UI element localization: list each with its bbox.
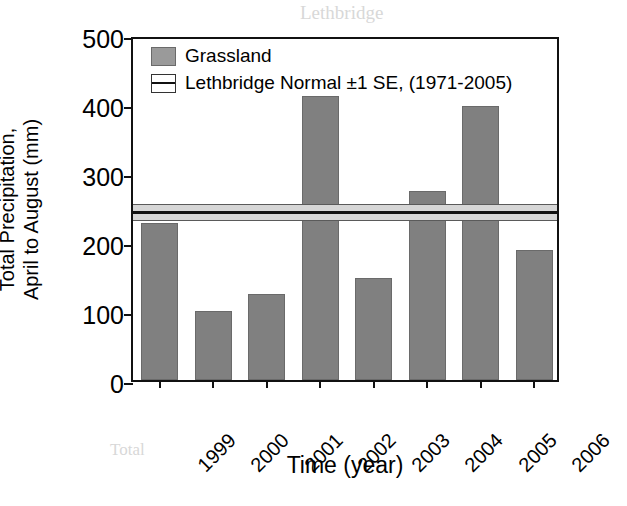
chart-legend: Grassland Lethbridge Normal ±1 SE, (1971… (151, 45, 512, 94)
y-axis-tick-label: 500 (82, 27, 124, 52)
normal-mean-line (133, 211, 557, 214)
legend-item-lethbridge-normal: Lethbridge Normal ±1 SE, (1971-2005) (151, 72, 512, 94)
x-axis-tick (212, 380, 214, 388)
legend-swatch-normal-band-icon (151, 74, 176, 93)
legend-item-grassland: Grassland (151, 45, 512, 67)
legend-swatch-grassland-icon (151, 47, 176, 66)
y-axis-tick (124, 383, 133, 385)
x-axis-title: Time (year) (131, 452, 559, 479)
bar-chart-figure: Total Precipitation, April to August (mm… (0, 0, 627, 506)
y-axis-tick (124, 176, 133, 178)
y-axis-tick-label: 300 (82, 165, 124, 190)
x-axis-tick (373, 380, 375, 388)
x-axis-tick (266, 380, 268, 388)
x-axis-tick (319, 380, 321, 388)
legend-label-grassland: Grassland (185, 45, 272, 67)
plot-area: Grassland Lethbridge Normal ±1 SE, (1971… (131, 37, 559, 382)
y-axis-tick-label: 100 (82, 303, 124, 328)
y-axis-tick-label: 0 (110, 372, 124, 397)
y-axis-title: Total Precipitation, April to August (mm… (0, 37, 48, 382)
y-axis-tick (124, 38, 133, 40)
x-axis-tick (159, 380, 161, 388)
y-axis-tick (124, 245, 133, 247)
y-axis-tick (124, 107, 133, 109)
y-axis-tick-label: 200 (82, 234, 124, 259)
x-axis-tick-label-2006: 2006 (567, 429, 615, 477)
legend-label-lethbridge-normal: Lethbridge Normal ±1 SE, (1971-2005) (185, 72, 512, 94)
x-axis-tick (533, 380, 535, 388)
x-axis-tick (426, 380, 428, 388)
x-axis-tick (480, 380, 482, 388)
y-axis-tick-label: 400 (82, 96, 124, 121)
y-axis-tick (124, 314, 133, 316)
